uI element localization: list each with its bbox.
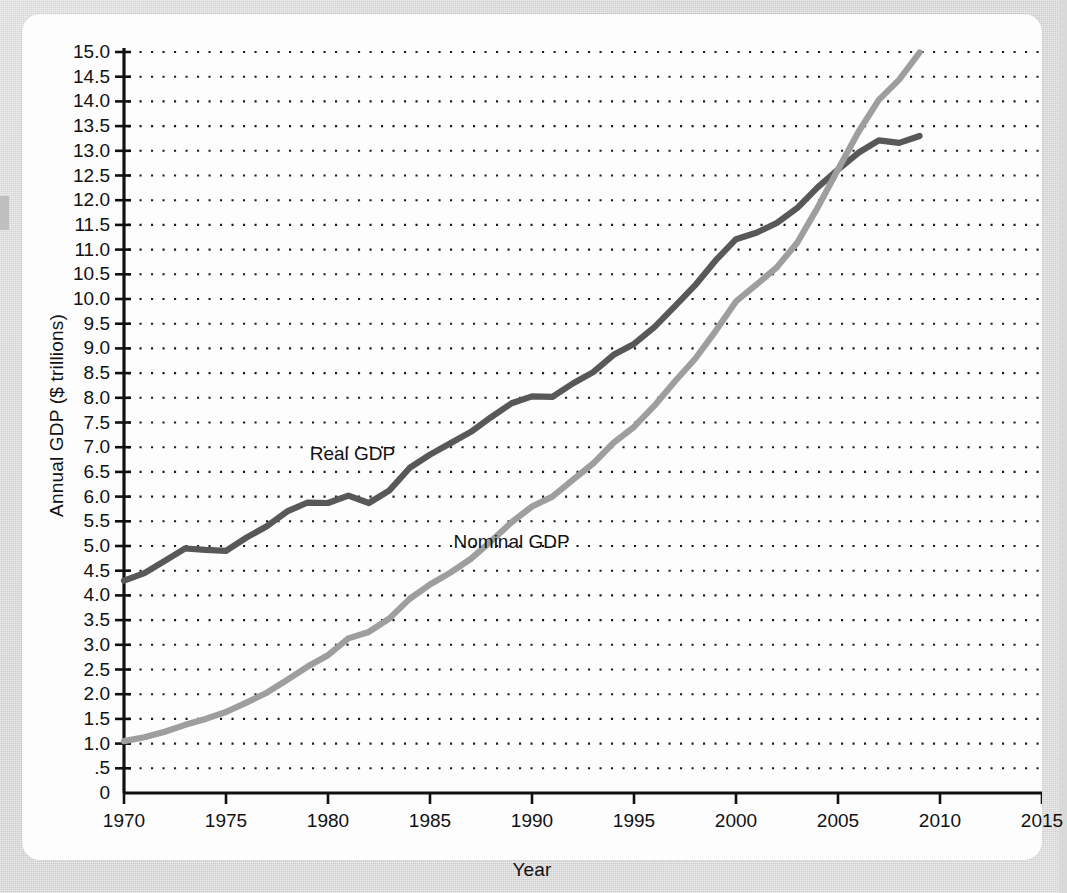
scan-margin-mark [0,196,9,230]
plot-area: Real GDPNominal GDP [22,14,1042,860]
gdp-line-chart: Annual GDP ($ trillions) Year 0.51.01.52… [22,14,1042,860]
real-gdp-series-label: Real GDP [310,443,396,464]
axis-lines [124,48,1042,793]
x-axis-title: Year [22,859,1042,881]
axis-ticks [115,52,1042,804]
gridlines [128,52,1042,768]
figure-page-card: Annual GDP ($ trillions) Year 0.51.01.52… [22,14,1042,860]
nominal-gdp-series-label: Nominal GDP [454,531,570,552]
